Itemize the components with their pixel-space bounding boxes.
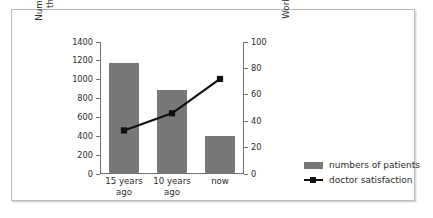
left-tick-label: 800 [77, 94, 93, 102]
satisfaction-markers [121, 76, 223, 134]
right-tick-mark [244, 42, 248, 43]
plot-area: 0200400600800100012001400 020406080100 1… [100, 42, 244, 174]
line-series-doctor-satisfaction [100, 42, 244, 174]
left-tick-label: 200 [77, 151, 93, 159]
right-tick-label: 20 [251, 143, 261, 151]
legend-item-numbers-of-patients: numbers of patients [304, 160, 420, 170]
data-point-marker [169, 110, 175, 116]
right-tick-label: 40 [251, 117, 261, 125]
right-tick-mark [244, 68, 248, 69]
legend-square-marker-icon [310, 177, 316, 183]
category-label: now [190, 176, 250, 187]
right-tick-mark [244, 147, 248, 148]
legend-label-doctor-satisfaction: doctor satisfaction [329, 175, 413, 185]
legend-label-numbers-of-patients: numbers of patients [329, 160, 420, 170]
right-tick-label: 60 [251, 90, 261, 98]
right-tick-mark [244, 121, 248, 122]
right-tick-mark [244, 94, 248, 95]
right-axis-title: Working environment for doctors [280, 0, 292, 24]
left-tick-label: 1400 [72, 38, 93, 46]
figure-frame: Number of patients who visit the hospita… [11, 9, 415, 201]
left-tick-label: 0 [88, 170, 93, 178]
chart-legend: numbers of patients doctor satisfaction [304, 160, 420, 185]
left-tick-label: 600 [77, 113, 93, 121]
legend-line-swatch-icon [304, 177, 323, 184]
satisfaction-line [124, 79, 220, 130]
data-point-marker [217, 76, 223, 82]
left-tick-label: 1000 [72, 75, 93, 83]
right-tick-label: 80 [251, 64, 261, 72]
chart-figure: Number of patients who visit the hospita… [0, 0, 433, 218]
left-tick-label: 400 [77, 132, 93, 140]
right-tick-label: 100 [251, 38, 267, 46]
legend-bar-swatch-icon [304, 162, 323, 169]
left-axis-title: Number of patients who visit the hospita… [34, 0, 56, 24]
left-tick-label: 1200 [72, 56, 93, 64]
data-point-marker [121, 127, 127, 133]
legend-item-doctor-satisfaction: doctor satisfaction [304, 175, 420, 185]
right-tick-mark [244, 174, 248, 175]
right-tick-label: 0 [251, 170, 256, 178]
